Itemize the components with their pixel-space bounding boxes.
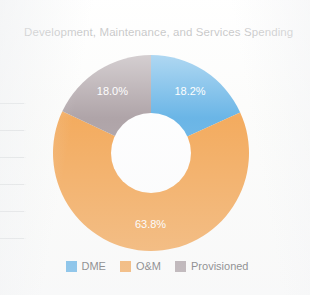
chart-title: Development, Maintenance, and Services S… <box>24 26 290 38</box>
legend-swatch-provisioned <box>175 261 186 272</box>
rule-line <box>0 103 26 104</box>
legend-label: Provisioned <box>191 260 248 272</box>
donut-chart: 18.2%63.8%18.0% <box>53 55 249 251</box>
chart-legend: DMEO&MProvisioned <box>24 260 290 272</box>
rule-line <box>0 211 26 212</box>
rule-line <box>0 130 26 131</box>
rule-line <box>0 157 26 158</box>
legend-item-dme[interactable]: DME <box>66 260 106 272</box>
donut-chart-svg: 18.2%63.8%18.0% <box>53 55 249 251</box>
donut-slice-label-provisioned: 18.0% <box>97 85 128 97</box>
rule-line <box>0 184 26 185</box>
donut-slice-label-dme: 18.2% <box>174 85 205 97</box>
legend-label: DME <box>82 260 106 272</box>
legend-label: O&M <box>136 260 161 272</box>
chart-panel: Development, Maintenance, and Services S… <box>24 8 290 288</box>
donut-hole <box>111 113 191 193</box>
legend-swatch-om <box>120 261 131 272</box>
legend-swatch-dme <box>66 261 77 272</box>
scanned-page: Development, Maintenance, and Services S… <box>0 0 310 295</box>
donut-slice-label-o-m: 63.8% <box>135 218 166 230</box>
legend-item-o-m[interactable]: O&M <box>120 260 161 272</box>
legend-item-provisioned[interactable]: Provisioned <box>175 260 248 272</box>
rule-line <box>0 238 26 239</box>
